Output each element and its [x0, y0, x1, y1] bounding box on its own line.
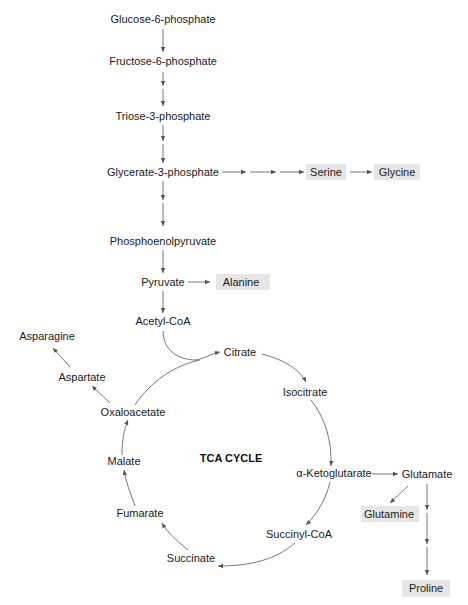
- citrate-label: Citrate: [224, 346, 256, 358]
- glycine-label: Glycine: [379, 166, 416, 178]
- fructose-6-phosphate-label: Fructose-6-phosphate: [109, 55, 217, 67]
- tca-cycle-title: TCA CYCLE: [200, 452, 263, 464]
- pyruvate-label: Pyruvate: [141, 276, 184, 288]
- arrow-aspartate-asparagine: [53, 348, 70, 367]
- fumarate-label: Fumarate: [116, 507, 163, 519]
- glycerate-3-phosphate-label: Glycerate-3-phosphate: [107, 166, 219, 178]
- alpha-ketoglutarate-label: α-Ketoglutarate: [296, 467, 371, 479]
- triose-3-phosphate-label: Triose-3-phosphate: [116, 110, 211, 122]
- arrow-citrate-isocitrate: [262, 354, 306, 382]
- arrow-malate-oxaloacetate: [122, 420, 128, 455]
- serine-label: Serine: [310, 166, 342, 178]
- malate-label: Malate: [107, 455, 140, 467]
- glucose-6-phosphate-label: Glucose-6-phosphate: [110, 13, 215, 25]
- arrow-isocitrate-aketoglutarate: [311, 400, 331, 466]
- arrow-fumarate-malate: [124, 470, 135, 506]
- succinyl-coa-label: Succinyl-CoA: [266, 528, 333, 540]
- aspartate-label: Aspartate: [58, 371, 105, 383]
- proline-label: Proline: [409, 582, 443, 594]
- glutamine-label: Glutamine: [364, 508, 414, 520]
- metabolic-pathway-diagram: Glucose-6-phosphate Fructose-6-phosphate…: [0, 0, 468, 605]
- succinate-label: Succinate: [167, 552, 215, 564]
- asparagine-label: Asparagine: [19, 330, 75, 342]
- arrow-glutamate-glutamine: [390, 486, 408, 503]
- oxaloacetate-label: Oxaloacetate: [101, 406, 166, 418]
- isocitrate-label: Isocitrate: [283, 386, 328, 398]
- phosphoenolpyruvate-label: Phosphoenolpyruvate: [110, 235, 216, 247]
- glutamate-label: Glutamate: [402, 468, 453, 480]
- alanine-label: Alanine: [223, 276, 260, 288]
- arrow-oxaloacetate-aspartate: [92, 386, 110, 403]
- arrow-succinylcoa-succinate: [218, 543, 295, 566]
- arc-oxaloacetate-citrate: [135, 360, 200, 405]
- arrow-aketoglutarate-succinylcoa: [306, 482, 330, 525]
- arrow-succinate-fumarate: [162, 523, 188, 550]
- arrow-acetylcoa-citrate: [163, 331, 220, 360]
- acetyl-coa-label: Acetyl-CoA: [135, 315, 191, 327]
